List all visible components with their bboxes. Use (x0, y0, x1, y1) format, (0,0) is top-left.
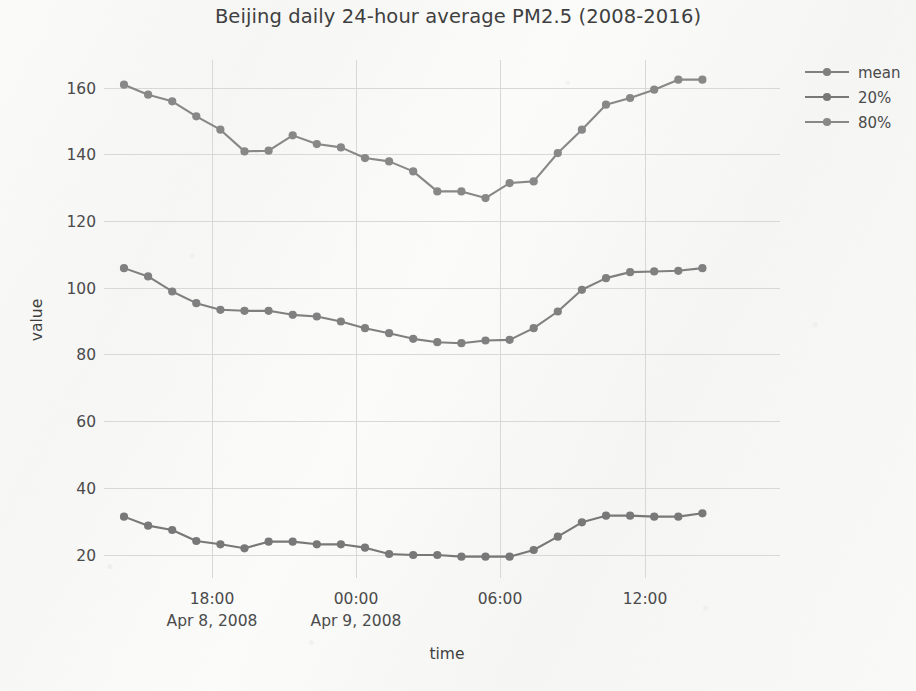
data-point-marker[interactable] (265, 147, 273, 155)
data-point-marker[interactable] (433, 338, 441, 346)
x-axis-tick-sublabel: Apr 9, 2008 (311, 612, 402, 630)
data-point-marker[interactable] (265, 538, 273, 546)
data-point-marker[interactable] (650, 513, 658, 521)
data-point-marker[interactable] (216, 540, 224, 548)
data-point-marker[interactable] (578, 518, 586, 526)
data-point-marker[interactable] (337, 317, 345, 325)
data-point-marker[interactable] (144, 91, 152, 99)
data-point-marker[interactable] (168, 526, 176, 534)
x-axis-title: time (429, 645, 464, 663)
data-point-marker[interactable] (144, 272, 152, 280)
data-point-marker[interactable] (313, 312, 321, 320)
y-axis-tick-label: 20 (76, 547, 96, 565)
data-point-marker[interactable] (674, 513, 682, 521)
data-point-marker[interactable] (626, 512, 634, 520)
data-point-marker[interactable] (457, 553, 465, 561)
data-point-marker[interactable] (650, 86, 658, 94)
data-point-marker[interactable] (216, 126, 224, 134)
data-point-marker[interactable] (554, 533, 562, 541)
data-point-marker[interactable] (385, 550, 393, 558)
legend-item-80pct[interactable]: 80% (858, 114, 891, 132)
data-point-marker[interactable] (240, 147, 248, 155)
data-point-marker[interactable] (289, 311, 297, 319)
x-axis-tick-label: 06:00 (478, 590, 523, 608)
data-point-marker[interactable] (626, 268, 634, 276)
chart-plot-area: 20406080100120140160 18:00Apr 8, 200800:… (0, 0, 916, 691)
data-point-marker[interactable] (506, 336, 514, 344)
data-point-marker[interactable] (650, 267, 658, 275)
data-point-marker[interactable] (602, 274, 610, 282)
data-point-marker[interactable] (481, 553, 489, 561)
data-point-marker[interactable] (602, 101, 610, 109)
data-point-marker[interactable] (385, 157, 393, 165)
data-point-marker[interactable] (698, 76, 706, 84)
data-point-marker[interactable] (192, 537, 200, 545)
data-point-marker[interactable] (265, 307, 273, 315)
data-point-marker[interactable] (674, 267, 682, 275)
data-point-marker[interactable] (120, 81, 128, 89)
data-point-marker[interactable] (409, 335, 417, 343)
data-point-marker[interactable] (337, 143, 345, 151)
x-axis-tick-label: 12:00 (623, 590, 668, 608)
data-point-marker[interactable] (554, 149, 562, 157)
data-point-marker[interactable] (433, 551, 441, 559)
y-axis-tick-label: 140 (66, 146, 96, 164)
data-point-marker[interactable] (578, 286, 586, 294)
data-point-marker[interactable] (313, 540, 321, 548)
y-axis-tick-labels: 20406080100120140160 (66, 80, 96, 565)
legend-item-mean[interactable]: mean (858, 64, 901, 82)
data-point-marker[interactable] (313, 140, 321, 148)
chart-figure: Beijing daily 24-hour average PM2.5 (200… (0, 0, 916, 691)
data-point-marker[interactable] (289, 131, 297, 139)
data-point-marker[interactable] (337, 540, 345, 548)
data-point-marker[interactable] (506, 179, 514, 187)
data-point-marker[interactable] (481, 336, 489, 344)
y-axis-tick-label: 100 (66, 280, 96, 298)
chart-legend: mean20%80% (805, 64, 901, 132)
legend-marker-swatch (823, 118, 831, 126)
x-axis-tick-label: 18:00 (190, 590, 235, 608)
data-point-marker[interactable] (457, 339, 465, 347)
x-axis-tick-labels: 18:00Apr 8, 200800:00Apr 9, 200806:0012:… (167, 590, 668, 630)
y-axis-title: value (28, 299, 46, 341)
data-point-marker[interactable] (626, 94, 634, 102)
data-point-marker[interactable] (554, 307, 562, 315)
data-point-marker[interactable] (506, 553, 514, 561)
y-axis-tick-label: 40 (76, 480, 96, 498)
data-point-marker[interactable] (120, 513, 128, 521)
data-point-marker[interactable] (168, 97, 176, 105)
data-point-marker[interactable] (698, 509, 706, 517)
data-point-marker[interactable] (240, 544, 248, 552)
data-point-marker[interactable] (602, 512, 610, 520)
legend-marker-swatch (823, 68, 831, 76)
data-point-marker[interactable] (674, 76, 682, 84)
data-point-marker[interactable] (530, 546, 538, 554)
data-point-marker[interactable] (698, 264, 706, 272)
data-point-marker[interactable] (120, 264, 128, 272)
data-point-marker[interactable] (457, 187, 465, 195)
data-point-marker[interactable] (168, 287, 176, 295)
data-point-marker[interactable] (361, 324, 369, 332)
data-point-marker[interactable] (409, 551, 417, 559)
data-point-marker[interactable] (192, 299, 200, 307)
data-point-marker[interactable] (578, 126, 586, 134)
data-point-marker[interactable] (481, 194, 489, 202)
gridlines-group (104, 60, 780, 578)
data-point-marker[interactable] (385, 329, 393, 337)
data-point-marker[interactable] (530, 177, 538, 185)
y-axis-tick-label: 60 (76, 413, 96, 431)
data-point-marker[interactable] (289, 538, 297, 546)
data-point-marker[interactable] (144, 522, 152, 530)
data-point-marker[interactable] (192, 112, 200, 120)
data-point-marker[interactable] (530, 324, 538, 332)
data-point-marker[interactable] (361, 154, 369, 162)
legend-item-20pct[interactable]: 20% (858, 89, 891, 107)
data-point-marker[interactable] (240, 307, 248, 315)
data-point-marker[interactable] (433, 187, 441, 195)
data-point-marker[interactable] (361, 544, 369, 552)
y-axis-tick-label: 160 (66, 80, 96, 98)
legend-marker-swatch (823, 93, 831, 101)
data-point-marker[interactable] (409, 167, 417, 175)
data-point-marker[interactable] (216, 306, 224, 314)
series-line-20pct (124, 513, 702, 556)
